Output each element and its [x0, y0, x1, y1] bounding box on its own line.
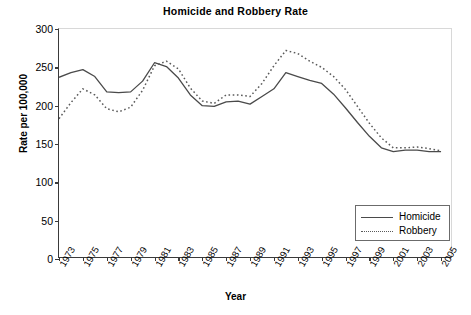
y-axis-tick-label: 300 [35, 23, 53, 35]
series-line-robbery [59, 50, 441, 150]
y-axis-label: Rate per 100,000 [18, 44, 29, 184]
series-line-homicide [59, 63, 441, 152]
legend-label-homicide: Homicide [399, 212, 441, 222]
y-axis-tick-mark [55, 144, 59, 145]
chart-figure: Homicide and Robbery Rate Rate per 100,0… [0, 0, 471, 315]
chart-title: Homicide and Robbery Rate [0, 5, 471, 17]
legend-key-solid-line [361, 217, 393, 218]
legend-label-robbery: Robbery [399, 226, 437, 236]
legend-item-robbery: Robbery [361, 224, 444, 238]
x-axis-label: Year [0, 291, 471, 302]
y-axis-tick-label: 100 [35, 176, 53, 188]
y-axis-tick-label: 150 [35, 138, 53, 150]
y-axis-tick-label: 250 [35, 61, 53, 73]
y-axis-tick-label: 200 [35, 100, 53, 112]
legend-item-homicide: Homicide [361, 210, 444, 224]
y-axis-tick-label: 0 [47, 253, 53, 265]
y-axis-tick-mark [55, 67, 59, 68]
y-axis-tick-mark [55, 221, 59, 222]
y-axis-tick-mark [55, 29, 59, 30]
y-axis-tick-label: 50 [41, 215, 53, 227]
legend-key-dotted-line [361, 231, 393, 232]
y-axis-tick-mark [55, 182, 59, 183]
y-axis-tick-mark [55, 106, 59, 107]
chart-legend: Homicide Robbery [355, 205, 450, 241]
